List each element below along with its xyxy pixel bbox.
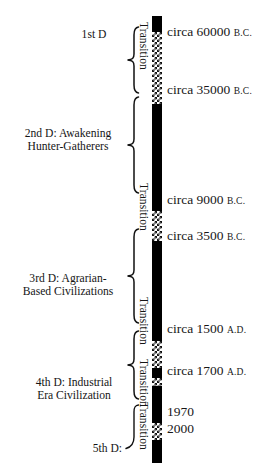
era-label-line-1: 2nd D: Awakening <box>14 127 122 140</box>
timeline-bar <box>152 16 162 463</box>
brace-era-2 <box>124 96 140 194</box>
date-value: circa 1700 <box>167 363 224 378</box>
date-value: circa 60000 <box>167 24 230 39</box>
timeline-segment-era-1 <box>152 16 162 32</box>
date-label-9000-bc: circa 9000 B.C. <box>167 192 245 208</box>
era-label-2: 2nd D: Awakening Hunter-Gatherers <box>14 127 122 154</box>
timeline-segment-era-4a <box>152 368 162 378</box>
date-label-1500-ad: circa 1500 A.D. <box>167 321 246 337</box>
era-label-line-2: Based Civilizations <box>14 285 122 298</box>
era-label-line-1: 1st D <box>66 28 122 41</box>
timeline-segment-era-2 <box>152 104 162 211</box>
date-era-suffix: B.C. <box>234 86 252 96</box>
era-label-line-1: 5th D: <box>74 442 122 455</box>
brace-era-1 <box>124 26 140 94</box>
era-label-line-2: Hunter-Gatherers <box>14 140 122 153</box>
date-value: circa 3500 <box>167 228 224 243</box>
timeline-segment-transition-4 <box>152 378 162 386</box>
date-value: 2000 <box>167 421 194 436</box>
date-label-35000-bc: circa 35000 B.C. <box>167 82 252 98</box>
era-label-line-1: 3rd D: Agrarian- <box>14 272 122 285</box>
date-value: circa 9000 <box>167 192 224 207</box>
date-era-suffix: B.C. <box>227 232 245 242</box>
era-label-line-2: Era Civilization <box>26 389 122 402</box>
date-era-suffix: B.C. <box>234 28 252 38</box>
era-label-1: 1st D <box>66 28 122 41</box>
timeline-segment-era-3 <box>152 241 162 341</box>
era-label-4: 4th D: Industrial Era Civilization <box>26 376 122 403</box>
timeline-segment-transition-1 <box>152 32 162 104</box>
date-label-60000-bc: circa 60000 B.C. <box>167 24 252 40</box>
date-label-1970: 1970 <box>167 404 194 420</box>
timeline-segment-transition-3 <box>152 341 162 368</box>
era-label-3: 3rd D: Agrarian- Based Civilizations <box>14 272 122 299</box>
date-era-suffix: A.D. <box>227 325 246 335</box>
date-era-suffix: A.D. <box>227 367 246 377</box>
timeline-segment-transition-5 <box>152 423 162 440</box>
era-label-line-1: 4th D: Industrial <box>26 376 122 389</box>
brace-era-3 <box>124 228 140 324</box>
brace-era-5 <box>124 404 140 450</box>
date-label-1700-ad: circa 1700 A.D. <box>167 363 246 379</box>
date-era-suffix: B.C. <box>227 196 245 206</box>
date-value: circa 1500 <box>167 321 224 336</box>
date-value: 1970 <box>167 404 194 419</box>
timeline-segment-transition-2 <box>152 211 162 241</box>
timeline-segment-era-5 <box>152 440 162 463</box>
era-label-5: 5th D: <box>74 442 122 455</box>
brace-era-4 <box>124 330 140 400</box>
date-label-2000: 2000 <box>167 421 194 437</box>
date-value: circa 35000 <box>167 82 230 97</box>
timeline-segment-era-4b <box>152 386 162 423</box>
date-label-3500-bc: circa 3500 B.C. <box>167 228 245 244</box>
